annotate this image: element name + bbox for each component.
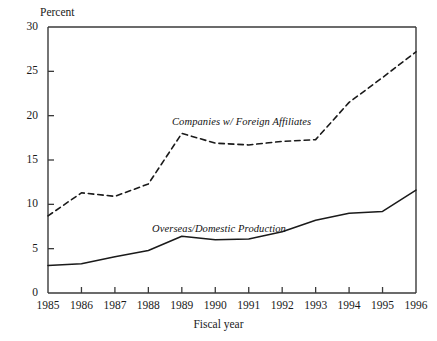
y-tick-label: 5 bbox=[8, 242, 38, 254]
y-tick-label: 15 bbox=[8, 153, 38, 165]
plot-frame bbox=[48, 27, 416, 293]
plot-canvas bbox=[0, 0, 437, 341]
series-line-foreign-affiliates bbox=[48, 52, 416, 216]
y-tick-label: 30 bbox=[8, 20, 38, 32]
series-annotation-foreign-affiliates: Companies w/ Foreign Affiliates bbox=[172, 116, 311, 127]
y-tick-label: 25 bbox=[8, 64, 38, 76]
y-axis-ticks bbox=[48, 71, 54, 248]
y-tick-label: 20 bbox=[8, 109, 38, 121]
x-tick-label: 1996 bbox=[394, 299, 437, 311]
x-axis-ticks bbox=[81, 287, 382, 293]
y-tick-label: 0 bbox=[8, 286, 38, 298]
y-tick-label: 10 bbox=[8, 197, 38, 209]
series-annotation-overseas-domestic: Overseas/Domestic Production bbox=[152, 223, 286, 234]
x-axis-title: Fiscal year bbox=[0, 318, 437, 330]
chart-figure: Percent 051015202530 1985198619871988198… bbox=[0, 0, 437, 341]
